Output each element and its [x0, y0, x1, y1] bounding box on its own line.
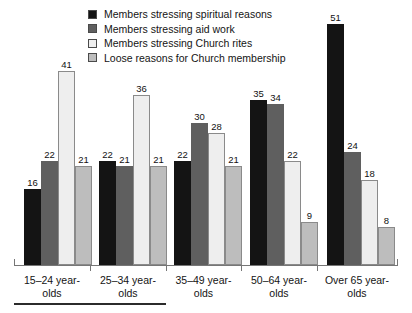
bar[interactable] — [174, 161, 191, 265]
axis-tick — [14, 259, 15, 266]
x-axis-label-line1: Over 65 year- — [317, 274, 397, 287]
bar-group: 22213621 — [99, 0, 167, 265]
axis-tick — [90, 265, 91, 271]
bar[interactable] — [41, 161, 58, 265]
x-axis-label-line2: olds — [241, 287, 317, 300]
bar-value-label: 8 — [367, 215, 407, 226]
label-underline-rule — [14, 303, 166, 305]
x-axis-label-line2: olds — [90, 287, 166, 300]
bar-value-label: 21 — [214, 154, 254, 165]
bar-slot: 21 — [225, 0, 242, 265]
bar-slot: 35 — [250, 0, 267, 265]
bar[interactable] — [208, 133, 225, 265]
bar-slot: 28 — [208, 0, 225, 265]
bar-slot: 36 — [133, 0, 150, 265]
axis-tick — [397, 259, 398, 266]
bar-slot: 21 — [150, 0, 167, 265]
bar[interactable] — [267, 104, 284, 265]
bar-slot: 51 — [327, 0, 344, 265]
bar-slot: 8 — [378, 0, 395, 265]
bar[interactable] — [301, 222, 318, 265]
axis-tick — [166, 265, 167, 271]
x-axis-label-line1: 15–24 year- — [14, 274, 90, 287]
bar-slot: 21 — [116, 0, 133, 265]
bar-slot: 30 — [191, 0, 208, 265]
bar[interactable] — [116, 166, 133, 265]
x-axis-label: Over 65 year-olds — [317, 274, 397, 300]
bar-slot: 34 — [267, 0, 284, 265]
bar-slot: 22 — [284, 0, 301, 265]
bar-slot: 22 — [41, 0, 58, 265]
bar[interactable] — [24, 189, 41, 265]
bar[interactable] — [58, 71, 75, 265]
x-axis-label-line1: 35–49 year- — [166, 274, 241, 287]
bar-slot: 24 — [344, 0, 361, 265]
bar-slot: 22 — [174, 0, 191, 265]
bar[interactable] — [133, 95, 150, 265]
x-axis-label: 15–24 year-olds — [14, 274, 90, 300]
x-axis-line — [14, 265, 398, 266]
bar[interactable] — [250, 100, 267, 265]
axis-tick — [241, 265, 242, 271]
bar-value-label: 9 — [290, 210, 330, 221]
bar[interactable] — [150, 166, 167, 265]
bar[interactable] — [191, 123, 208, 265]
bar-slot: 41 — [58, 0, 75, 265]
bar[interactable] — [99, 161, 116, 265]
bar-slot: 21 — [75, 0, 92, 265]
axis-tick — [317, 265, 318, 271]
x-axis-label-line1: 50–64 year- — [241, 274, 317, 287]
x-axis-label-line2: olds — [166, 287, 241, 300]
x-axis-label-line1: 25–34 year- — [90, 274, 166, 287]
plot-area: 16224121222136212230282135342295124188 — [0, 0, 412, 265]
bar-chart: Members stressing spiritual reasonsMembe… — [0, 0, 412, 313]
bar-group: 22302821 — [174, 0, 242, 265]
bar-slot: 22 — [99, 0, 116, 265]
x-axis-label: 50–64 year-olds — [241, 274, 317, 300]
bar[interactable] — [75, 166, 92, 265]
bar[interactable] — [378, 227, 395, 265]
x-axis-label: 25–34 year-olds — [90, 274, 166, 300]
bar-slot: 16 — [24, 0, 41, 265]
bar-slot: 9 — [301, 0, 318, 265]
bar-group: 3534229 — [250, 0, 318, 265]
x-axis-label: 35–49 year-olds — [166, 274, 241, 300]
bar-group: 5124188 — [327, 0, 395, 265]
bar[interactable] — [225, 166, 242, 265]
x-axis-label-line2: olds — [317, 287, 397, 300]
bar-group: 16224121 — [24, 0, 92, 265]
x-axis-label-line2: olds — [14, 287, 90, 300]
